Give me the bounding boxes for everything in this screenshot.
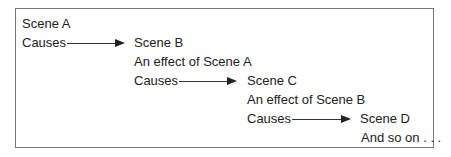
arrow-icon [179, 81, 235, 82]
arrow-icon [67, 43, 123, 44]
scene-c-label: Scene C [247, 74, 297, 88]
arrow-icon [292, 119, 349, 120]
causes-label-3: Causes [247, 112, 291, 126]
scene-a-label: Scene A [22, 17, 70, 31]
causes-label-2: Causes [134, 74, 178, 88]
scene-b-label: Scene B [134, 36, 183, 50]
causes-label-1: Causes [22, 36, 66, 50]
effect-of-b-label: An effect of Scene B [247, 93, 365, 107]
effect-of-a-label: An effect of Scene A [134, 55, 252, 69]
and-so-on-label: And so on . . . [361, 131, 441, 145]
scene-d-label: Scene D [360, 112, 410, 126]
diagram-frame [15, 8, 434, 148]
